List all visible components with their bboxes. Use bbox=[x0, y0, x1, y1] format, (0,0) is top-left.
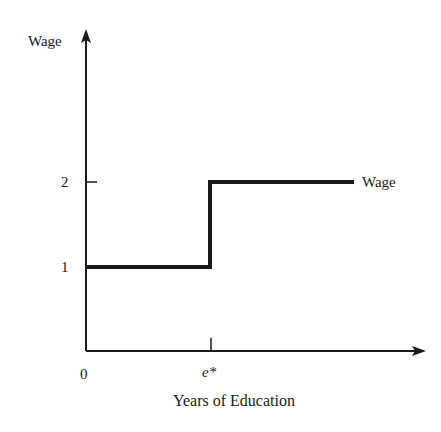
x-axis-label: Years of Education bbox=[173, 393, 295, 409]
y-axis-label: Wage bbox=[28, 34, 62, 49]
chart-canvas bbox=[0, 0, 441, 432]
y-tick-label-2: 2 bbox=[61, 175, 69, 190]
wage-step-line bbox=[86, 182, 354, 267]
y-tick-label-1: 1 bbox=[61, 260, 69, 275]
x-tick-label-e-star: e* bbox=[202, 365, 216, 380]
series-label-wage: Wage bbox=[362, 175, 396, 190]
origin-label: 0 bbox=[80, 367, 88, 382]
